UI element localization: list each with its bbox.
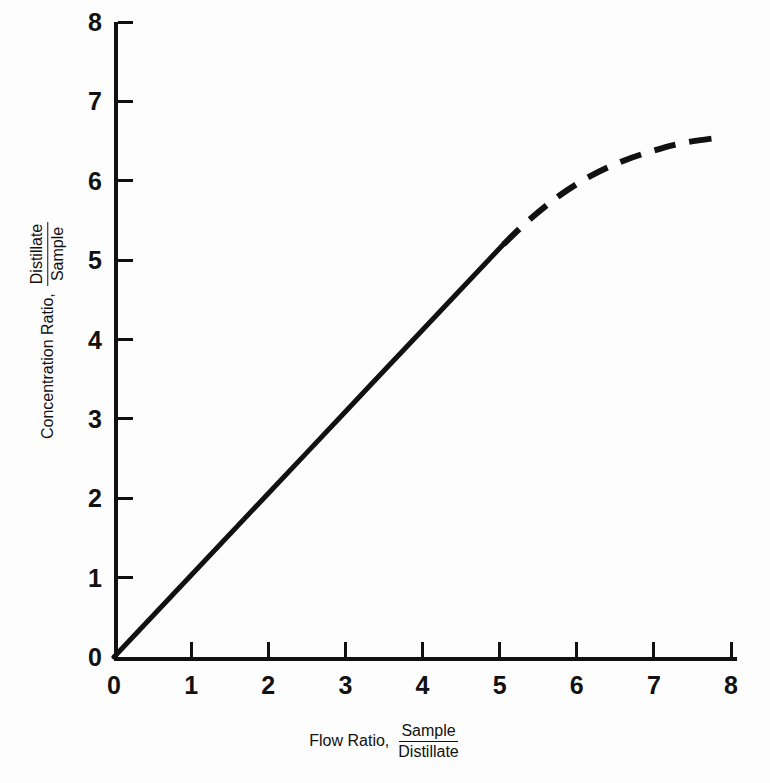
plot-area: 012345678 012345678 xyxy=(114,22,733,661)
y-tick-label-1: 1 xyxy=(88,565,102,590)
y-tick-label-7: 7 xyxy=(88,89,102,114)
x-tick-label-3: 3 xyxy=(338,673,352,698)
x-axis-title: Flow Ratio, Sample Distillate xyxy=(0,722,770,761)
y-tick-label-6: 6 xyxy=(88,168,102,193)
y-tick-label-8: 8 xyxy=(88,10,102,35)
y-axis-title-prefix: Concentration Ratio, xyxy=(39,293,57,439)
x-tick-label-4: 4 xyxy=(416,673,430,698)
x-tick-label-1: 1 xyxy=(184,673,198,698)
y-tick-label-4: 4 xyxy=(88,327,102,352)
x-tick-label-8: 8 xyxy=(724,673,738,698)
x-axis-title-text: Flow Ratio, Sample Distillate xyxy=(309,722,461,761)
y-axis-title: Concentration Ratio, Distillate Sample xyxy=(18,160,78,500)
figure: Concentration Ratio, Distillate Sample 0… xyxy=(0,0,770,783)
y-tick-label-2: 2 xyxy=(88,486,102,511)
series-extrapolated-region xyxy=(503,137,723,244)
y-axis-title-fraction: Distillate Sample xyxy=(29,221,68,285)
series-measured-region xyxy=(114,244,503,657)
x-tick-label-0: 0 xyxy=(107,673,121,698)
x-tick-label-7: 7 xyxy=(647,673,661,698)
x-axis-title-denominator: Distillate xyxy=(396,742,460,761)
y-tick-label-3: 3 xyxy=(88,406,102,431)
x-axis-title-numerator: Sample xyxy=(399,722,457,742)
y-axis-title-numerator: Distillate xyxy=(29,221,49,285)
curve-svg xyxy=(114,22,733,661)
x-axis-title-fraction: Sample Distillate xyxy=(396,722,460,761)
y-tick-label-5: 5 xyxy=(88,248,102,273)
x-tick-label-6: 6 xyxy=(570,673,584,698)
y-axis-title-denominator: Sample xyxy=(49,224,68,282)
y-axis-title-text: Concentration Ratio, Distillate Sample xyxy=(29,221,68,438)
x-tick-label-2: 2 xyxy=(261,673,275,698)
x-axis-title-prefix: Flow Ratio, xyxy=(309,732,389,750)
y-tick-label-0: 0 xyxy=(88,645,102,670)
x-tick-label-5: 5 xyxy=(493,673,507,698)
